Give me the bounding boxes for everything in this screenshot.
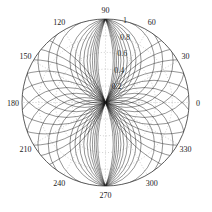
angle-label-30: 30 (182, 52, 190, 61)
data-curve (80, 98, 173, 191)
angle-label-270: 270 (100, 191, 112, 200)
radius-label: 0.2 (111, 82, 121, 91)
radius-label: 1 (123, 16, 127, 25)
data-curve (90, 80, 212, 208)
angle-label-90: 90 (102, 6, 110, 15)
angle-label-300: 300 (146, 179, 158, 188)
angle-label-0: 0 (196, 99, 200, 108)
polar-chart: 0306090120150180210240270300330 0.20.40.… (0, 0, 212, 212)
data-curve (80, 14, 173, 107)
radius-label: 0.6 (117, 49, 127, 58)
angle-label-240: 240 (53, 179, 65, 188)
data-curves (0, 0, 212, 212)
data-curve (38, 14, 131, 107)
angle-label-210: 210 (19, 145, 31, 154)
angle-label-150: 150 (19, 52, 31, 61)
data-curve (38, 98, 131, 191)
angle-label-60: 60 (148, 18, 156, 27)
angle-label-120: 120 (53, 18, 65, 27)
angle-label-330: 330 (180, 145, 192, 154)
angle-label-180: 180 (7, 99, 19, 108)
radius-label: 0.8 (120, 33, 130, 42)
data-curve (0, 60, 117, 212)
radius-label: 0.4 (114, 66, 124, 75)
